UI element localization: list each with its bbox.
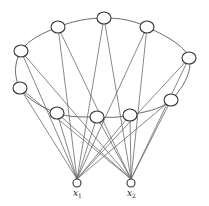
input-label-x2: x2 [127,188,136,199]
hidden-node-n_ir [123,109,137,121]
edge [77,115,130,179]
hidden-node-n_lr [164,94,178,106]
edge [21,51,131,179]
edge [77,27,147,179]
edge [77,18,104,179]
edge [58,27,131,179]
ring-edges [15,18,189,117]
hidden-node-n_il [50,107,64,119]
input-node-x2 [127,179,135,187]
ring-curve [15,18,189,117]
hidden-nodes [13,12,196,123]
edge [20,88,77,179]
edge [131,58,189,179]
edge [131,100,171,179]
input-nodes: x1x2 [73,179,136,199]
input-node-x1 [73,179,81,187]
hidden-node-n_ll [13,82,27,94]
input-label-x1: x1 [73,188,82,199]
hidden-node-n_r [182,52,196,64]
hidden-node-n_ic [90,111,104,123]
hidden-node-n_ur [140,21,154,33]
edge [57,113,77,179]
network-diagram: x1x2 [0,0,209,206]
edge [130,115,131,179]
hidden-node-n_ul [51,21,65,33]
edge [77,117,97,179]
hidden-node-n_top [97,12,111,24]
hidden-node-n_l [14,45,28,57]
edge [58,27,77,179]
edge [131,27,147,179]
